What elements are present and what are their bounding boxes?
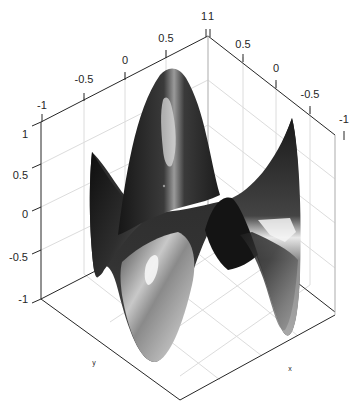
z-tick-0: 0 (22, 208, 28, 220)
x-tick-neg1: -1 (339, 113, 349, 125)
x-tick-0: 0 (273, 62, 279, 74)
z-tick-neg0.5: -0.5 (9, 251, 28, 263)
y-tick-1: 1 (201, 10, 207, 22)
z-tick-0.5: 0.5 (13, 169, 28, 181)
x-axis-label: x (288, 365, 292, 372)
surface-marker (163, 185, 165, 187)
y-tick-0.5: 0.5 (158, 32, 173, 44)
y-tick-neg0.5: -0.5 (75, 73, 94, 85)
z-tick-labels: 1 0.5 0 -0.5 -1 (9, 128, 28, 305)
surface (90, 69, 301, 362)
z-tick-1: 1 (22, 128, 28, 140)
z-tick-neg1: -1 (18, 293, 28, 305)
x-tick-labels: 1 0.5 0 -0.5 -1 (208, 10, 349, 125)
y-axis-label: y (92, 359, 96, 367)
y-tick-neg1: -1 (37, 99, 47, 111)
x-tick-neg0.5: -0.5 (301, 88, 320, 100)
y-tick-0: 0 (122, 54, 128, 66)
x-tick-1: 1 (208, 10, 214, 22)
x-tick-0.5: 0.5 (235, 38, 250, 50)
surface-plot: 1 0.5 0 -0.5 -1 -1 -0.5 0 0.5 1 1 0.5 0 … (0, 0, 359, 409)
